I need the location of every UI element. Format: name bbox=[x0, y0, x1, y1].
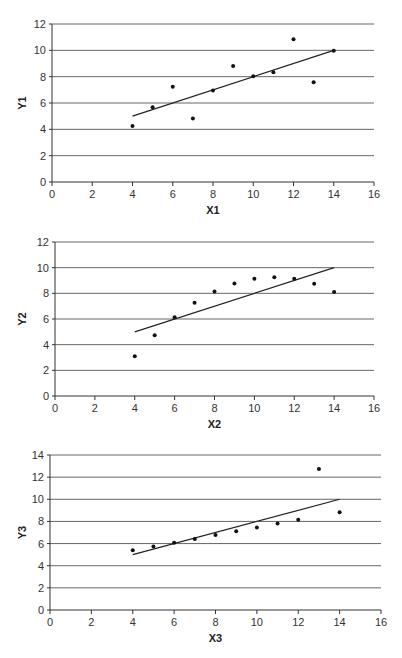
x-tick-label: 10 bbox=[251, 616, 263, 628]
y-tick-label: 4 bbox=[38, 560, 44, 572]
data-point bbox=[171, 85, 175, 89]
data-point bbox=[214, 533, 218, 537]
y-tick-label: 2 bbox=[38, 582, 44, 594]
data-point bbox=[255, 525, 259, 529]
y-tick-label: 0 bbox=[40, 176, 46, 188]
x-tick-label: 14 bbox=[328, 188, 340, 200]
x-tick-label: 2 bbox=[92, 402, 98, 414]
y-axis-label: Y1 bbox=[16, 96, 28, 109]
x-tick-label: 4 bbox=[130, 616, 136, 628]
y-axis-label: Y3 bbox=[16, 526, 28, 539]
y-tick-label: 10 bbox=[34, 44, 46, 56]
x-tick-label: 10 bbox=[248, 402, 260, 414]
scatter-chart-3: 024681012140246810121416X3Y3 bbox=[16, 449, 387, 644]
y-tick-label: 2 bbox=[40, 150, 46, 162]
data-point bbox=[191, 117, 195, 121]
trendline bbox=[133, 499, 340, 554]
y-tick-label: 4 bbox=[40, 123, 46, 135]
data-point bbox=[173, 315, 177, 319]
data-point bbox=[272, 275, 276, 279]
data-point bbox=[133, 354, 137, 358]
data-point bbox=[292, 37, 296, 41]
y-tick-label: 6 bbox=[40, 97, 46, 109]
data-point bbox=[251, 74, 255, 78]
data-point bbox=[131, 548, 135, 552]
x-tick-label: 16 bbox=[368, 402, 380, 414]
x-tick-label: 6 bbox=[172, 402, 178, 414]
data-point bbox=[317, 467, 321, 471]
y-tick-label: 14 bbox=[32, 449, 44, 461]
x-tick-label: 8 bbox=[212, 616, 218, 628]
scatter-charts: 0246810120246810121416X1Y102468101202468… bbox=[0, 0, 402, 658]
x-tick-label: 12 bbox=[287, 188, 299, 200]
scatter-chart-1: 0246810120246810121416X1Y1 bbox=[16, 18, 380, 216]
x-tick-label: 14 bbox=[334, 616, 346, 628]
data-point bbox=[151, 105, 155, 109]
data-point bbox=[252, 277, 256, 281]
trendline bbox=[135, 268, 334, 332]
x-tick-label: 2 bbox=[88, 616, 94, 628]
x-tick-label: 4 bbox=[129, 188, 135, 200]
data-point bbox=[276, 522, 280, 526]
data-point bbox=[211, 88, 215, 92]
data-point bbox=[151, 545, 155, 549]
x-tick-label: 0 bbox=[52, 402, 58, 414]
x-tick-label: 12 bbox=[292, 616, 304, 628]
y-tick-label: 8 bbox=[40, 71, 46, 83]
x-axis-label: X3 bbox=[209, 632, 222, 644]
data-point bbox=[153, 333, 157, 337]
data-point bbox=[232, 281, 236, 285]
data-point bbox=[172, 541, 176, 545]
x-tick-label: 4 bbox=[132, 402, 138, 414]
data-point bbox=[193, 537, 197, 541]
y-tick-label: 12 bbox=[37, 236, 49, 248]
x-tick-label: 12 bbox=[288, 402, 300, 414]
data-point bbox=[231, 64, 235, 68]
data-point bbox=[332, 49, 336, 53]
x-tick-label: 8 bbox=[210, 188, 216, 200]
y-tick-label: 6 bbox=[43, 313, 49, 325]
data-point bbox=[213, 290, 217, 294]
data-point bbox=[312, 80, 316, 84]
y-tick-label: 0 bbox=[43, 390, 49, 402]
x-tick-label: 0 bbox=[47, 616, 53, 628]
y-tick-label: 10 bbox=[37, 262, 49, 274]
y-tick-label: 0 bbox=[38, 604, 44, 616]
data-point bbox=[193, 301, 197, 305]
y-tick-label: 2 bbox=[43, 364, 49, 376]
x-tick-label: 2 bbox=[89, 188, 95, 200]
data-point bbox=[292, 277, 296, 281]
y-tick-label: 12 bbox=[34, 18, 46, 30]
x-tick-label: 8 bbox=[211, 402, 217, 414]
y-tick-label: 4 bbox=[43, 339, 49, 351]
y-tick-label: 6 bbox=[38, 538, 44, 550]
data-point bbox=[296, 518, 300, 522]
data-point bbox=[131, 124, 135, 128]
y-tick-label: 8 bbox=[43, 287, 49, 299]
x-tick-label: 0 bbox=[49, 188, 55, 200]
x-tick-label: 6 bbox=[171, 616, 177, 628]
y-tick-label: 12 bbox=[32, 471, 44, 483]
y-tick-label: 10 bbox=[32, 493, 44, 505]
data-point bbox=[234, 529, 238, 533]
scatter-chart-2: 0246810120246810121416X2Y2 bbox=[16, 236, 380, 430]
data-point bbox=[312, 282, 316, 286]
x-tick-label: 16 bbox=[375, 616, 387, 628]
x-tick-label: 10 bbox=[247, 188, 259, 200]
data-point bbox=[332, 290, 336, 294]
data-point bbox=[271, 70, 275, 74]
x-axis-label: X2 bbox=[208, 418, 221, 430]
x-tick-label: 6 bbox=[170, 188, 176, 200]
x-tick-label: 16 bbox=[368, 188, 380, 200]
data-point bbox=[338, 510, 342, 514]
trendline bbox=[133, 50, 334, 116]
y-axis-label: Y2 bbox=[16, 312, 28, 325]
x-axis-label: X1 bbox=[206, 204, 219, 216]
x-tick-label: 14 bbox=[328, 402, 340, 414]
y-tick-label: 8 bbox=[38, 515, 44, 527]
